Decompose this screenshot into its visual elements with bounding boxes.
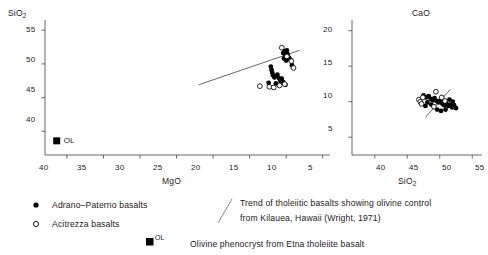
- legend-item-acitrezza: Acitrezza basalts: [52, 219, 120, 229]
- legend-open-circle-icon: [33, 221, 38, 226]
- legend-trend-line-icon: [218, 199, 232, 223]
- data-point-open: [291, 66, 296, 71]
- data-point-open: [279, 45, 284, 50]
- legend-ol-marker-label: OL: [155, 234, 165, 241]
- data-point-open: [419, 101, 424, 106]
- olivine-marker: [53, 137, 60, 144]
- legend-annotation-line1: Trend of tholeiitic basalts showing oliv…: [240, 198, 431, 208]
- legend-item-adrano-paterno: Adrano–Paterno basalts: [52, 200, 148, 210]
- data-point-open: [284, 54, 289, 59]
- legend-filled-circle-icon: [33, 202, 38, 207]
- data-point-open: [271, 85, 276, 90]
- data-point-open: [433, 89, 438, 94]
- legend-annotation-line2: from Kilauea, Hawaii (Wright, 1971): [240, 213, 381, 223]
- legend-item-olivine-phenocryst: Olivine phenocryst from Etna tholeiite b…: [190, 239, 364, 249]
- plot-area-left: OL: [0, 0, 340, 195]
- data-point-open: [443, 99, 448, 104]
- legend: Adrano–Paterno basalts Acitrezza basalts…: [0, 193, 488, 255]
- data-point-open: [432, 104, 437, 109]
- data-point-filled: [450, 99, 455, 104]
- chart-cao-vs-sio2: CaO SiO2 20 15 10 5 40 45 50 55: [330, 0, 488, 195]
- chart-sio2-vs-mgo: SiO2 MgO 55 50 45 40 40 35 30 25 20 15 1…: [0, 0, 340, 195]
- legend-filled-square-icon: [146, 238, 154, 246]
- data-point-open: [277, 83, 282, 88]
- data-point-open: [257, 84, 262, 89]
- plot-area-right: [330, 0, 488, 195]
- data-point-open: [420, 95, 425, 100]
- data-point-open: [282, 82, 287, 87]
- data-point-filled: [443, 107, 448, 112]
- data-point-filled: [454, 106, 459, 111]
- data-point-filled: [284, 48, 289, 53]
- olivine-marker-label: OL: [64, 136, 75, 145]
- data-point-open: [289, 59, 294, 64]
- figure-container: SiO2 MgO 55 50 45 40 40 35 30 25 20 15 1…: [0, 0, 488, 255]
